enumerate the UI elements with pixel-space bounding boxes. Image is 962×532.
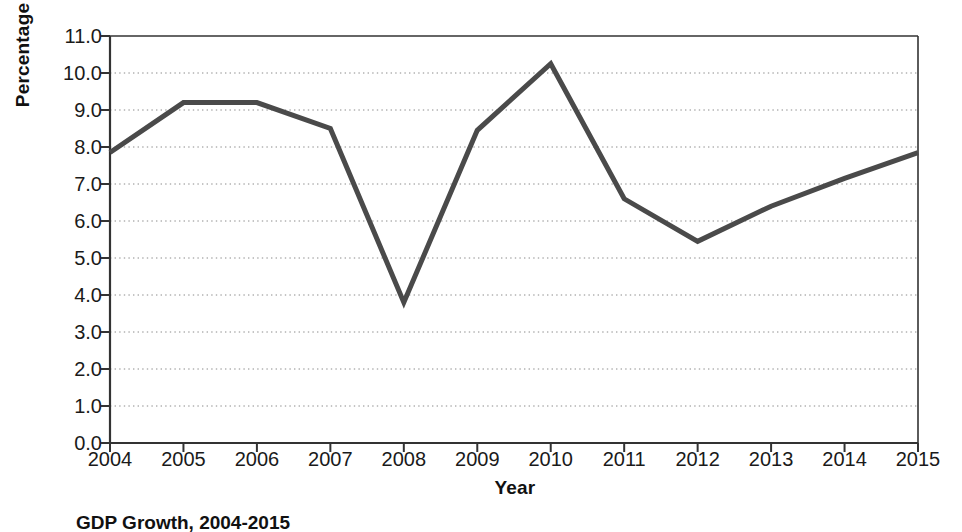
x-tick-label: 2013: [731, 449, 811, 469]
gdp-growth-line-chart: Percentage 0.01.02.03.04.05.06.07.08.09.…: [0, 0, 962, 532]
x-tick-label: 2009: [437, 449, 517, 469]
figure-caption-text: GDP Growth, 2004-2015: [18, 512, 290, 532]
x-tick-label: 2005: [143, 449, 223, 469]
x-axis-title: Year: [110, 477, 920, 499]
x-tick-label: 2007: [290, 449, 370, 469]
x-tick-label: 2014: [805, 449, 885, 469]
x-tick-label: 2006: [217, 449, 297, 469]
x-tick-label: 2004: [70, 449, 150, 469]
y-axis-ticks: [101, 36, 110, 443]
x-tick-label: 2012: [658, 449, 738, 469]
x-tick-label: 2010: [511, 449, 591, 469]
x-tick-label: 2011: [584, 449, 664, 469]
figure-caption: GDP Growth, 2004-2015: [0, 512, 962, 532]
x-tick-label: 2008: [364, 449, 444, 469]
x-tick-label: 2015: [878, 449, 958, 469]
gridlines: [110, 73, 918, 406]
data-series-line: [110, 64, 918, 303]
